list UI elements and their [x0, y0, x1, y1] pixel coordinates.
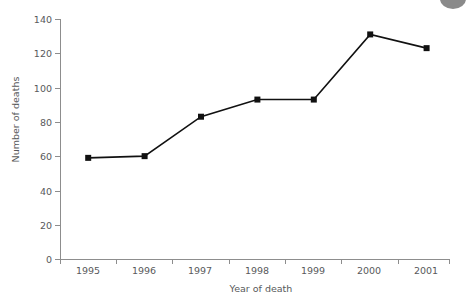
- y-axis-title: Number of deaths: [10, 60, 21, 180]
- data-point-1998: [254, 97, 260, 103]
- x-axis-title: Year of death: [0, 283, 470, 294]
- data-point-1999: [311, 97, 317, 103]
- data-point-2001: [424, 45, 430, 51]
- data-point-1996: [142, 153, 148, 159]
- data-point-1997: [198, 114, 204, 120]
- data-point-2000: [367, 31, 373, 37]
- series-layer: [0, 0, 470, 304]
- series-line-number-of-deaths: [88, 34, 426, 157]
- chart-page: 0 20 40 60 80 100 120 140 1995 1996 1997…: [0, 0, 470, 304]
- series-markers: [85, 31, 429, 160]
- data-point-1995: [85, 155, 91, 161]
- line-chart: 0 20 40 60 80 100 120 140 1995 1996 1997…: [0, 0, 470, 304]
